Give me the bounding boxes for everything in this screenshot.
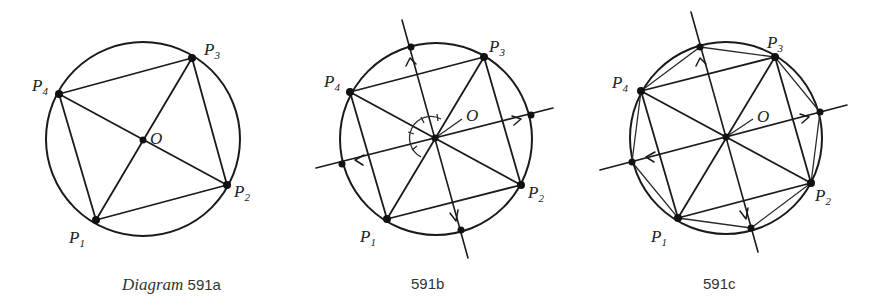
vertex-p4 — [55, 90, 63, 98]
vertex-p3 — [188, 54, 196, 62]
vertex-p1 — [92, 216, 100, 224]
octagon-point-left — [629, 159, 636, 166]
vertex-p1 — [674, 214, 682, 222]
label-p1: P1 — [359, 227, 376, 248]
vertex-p3 — [480, 53, 488, 61]
caption-number: 591a — [188, 276, 221, 293]
vertex-p1 — [383, 215, 391, 223]
label-p4: P4 — [611, 73, 628, 94]
diagram-figure: O P1 P2 P3 P4 O P1 — [0, 0, 876, 308]
caption-prefix: Diagram — [122, 275, 183, 294]
angle-tick — [412, 146, 417, 150]
label-p3: P3 — [203, 40, 220, 61]
label-p4: P4 — [31, 76, 48, 97]
caption-591c: 591c — [703, 275, 736, 292]
label-p4: P4 — [323, 72, 340, 93]
center-o — [432, 135, 439, 142]
label-p2: P2 — [527, 183, 544, 204]
label-p3: P3 — [488, 37, 505, 58]
caption-number: 591b — [411, 275, 444, 292]
label-o: O — [466, 106, 478, 125]
octagon-point-right — [817, 109, 824, 116]
bisector-point-left — [339, 161, 346, 168]
center-o — [723, 134, 730, 141]
vertex-p2 — [807, 179, 815, 187]
arrow-down-icon — [450, 210, 458, 221]
vertex-p4 — [637, 87, 645, 95]
vertex-p2 — [517, 181, 525, 189]
vertex-p3 — [771, 53, 779, 61]
label-p3: P3 — [766, 33, 783, 54]
bisector-point-right — [528, 112, 535, 119]
center-o — [140, 137, 147, 144]
label-p2: P2 — [233, 182, 250, 203]
caption-591a: Diagram 591a — [122, 275, 221, 295]
angle-tick — [437, 114, 438, 121]
label-o: O — [150, 129, 162, 148]
vertex-p4 — [346, 88, 354, 96]
octagon-point-bottom — [748, 225, 755, 232]
diagram-591a: O P1 P2 P3 P4 — [31, 40, 250, 249]
vertex-p2 — [223, 181, 231, 189]
bisector-point-top — [408, 44, 415, 51]
label-p1: P1 — [650, 227, 667, 248]
angle-tick — [408, 132, 414, 134]
caption-number: 591c — [703, 275, 736, 292]
caption-591b: 591b — [411, 275, 444, 292]
octagon-point-top — [697, 44, 704, 51]
label-o: O — [757, 107, 769, 126]
label-p1: P1 — [68, 228, 85, 249]
diagram-591b: O P1 P2 P3 P4 — [316, 20, 553, 258]
bisector-point-bottom — [458, 227, 465, 234]
diagram-591c: O P1 P2 P3 P4 — [600, 12, 847, 252]
label-p2: P2 — [814, 186, 831, 207]
